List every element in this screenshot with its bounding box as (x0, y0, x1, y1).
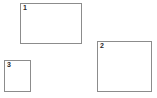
region-label-3: 3 (7, 61, 11, 69)
region-box-1[interactable]: 1 (20, 3, 82, 44)
annotation-canvas: 1 2 3 (0, 0, 157, 98)
region-label-1: 1 (23, 4, 27, 12)
region-label-2: 2 (100, 42, 104, 50)
region-box-2[interactable]: 2 (97, 41, 152, 92)
region-box-3[interactable]: 3 (4, 60, 31, 92)
